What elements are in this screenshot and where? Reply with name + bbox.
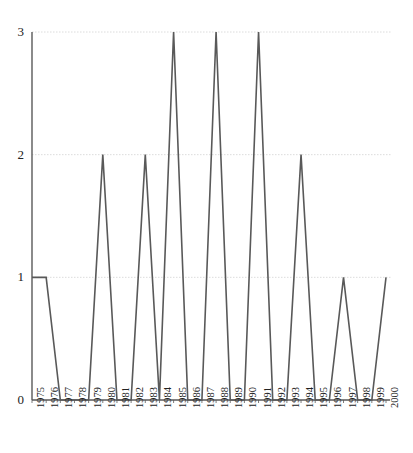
y-tick-label-3: 3 (2, 25, 24, 38)
x-tick-label-1999: 1999 (376, 387, 387, 408)
y-tick-label-2: 2 (2, 148, 24, 161)
x-tick-label-1995: 1995 (319, 387, 330, 408)
x-tick-label-1983: 1983 (149, 387, 160, 408)
x-tick-label-1993: 1993 (291, 387, 302, 408)
x-tick-label-1984: 1984 (163, 387, 174, 408)
x-tick-label-1996: 1996 (333, 387, 344, 408)
x-tick-label-1979: 1979 (93, 387, 104, 408)
x-tick-label-1981: 1981 (121, 387, 132, 408)
series-line-count (32, 32, 386, 400)
x-tick-label-1990: 1990 (248, 387, 259, 408)
y-tick-label-1: 1 (2, 270, 24, 283)
x-tick-label-1987: 1987 (206, 387, 217, 408)
x-tick-label-1977: 1977 (64, 387, 75, 408)
x-tick-label-1998: 1998 (362, 387, 373, 408)
x-tick-label-1985: 1985 (178, 387, 189, 408)
x-tick-label-1997: 1997 (348, 387, 359, 408)
x-tick-label-1994: 1994 (305, 387, 316, 408)
x-tick-label-1992: 1992 (277, 387, 288, 408)
x-tick-label-1991: 1991 (263, 387, 274, 408)
x-tick-label-1989: 1989 (234, 387, 245, 408)
y-tick-label-0: 0 (2, 393, 24, 406)
x-tick-label-1988: 1988 (220, 387, 231, 408)
x-tick-label-1978: 1978 (78, 387, 89, 408)
x-tick-label-1986: 1986 (192, 387, 203, 408)
chart-plot-area (0, 0, 413, 453)
x-tick-label-1975: 1975 (36, 387, 47, 408)
x-tick-label-2000: 2000 (390, 387, 401, 408)
x-tick-label-1980: 1980 (107, 387, 118, 408)
x-tick-label-1976: 1976 (50, 387, 61, 408)
x-tick-label-1982: 1982 (135, 387, 146, 408)
line-chart: 3210 19751976197719781979198019811982198… (0, 0, 413, 453)
